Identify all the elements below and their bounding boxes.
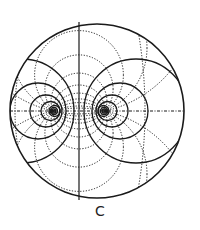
figure-caption: C — [0, 203, 200, 219]
right-focus-point — [104, 110, 106, 112]
bipolar-field-diagram — [0, 0, 200, 230]
dotted-far-arc-right — [138, 30, 145, 190]
left-focus-point — [52, 110, 54, 112]
